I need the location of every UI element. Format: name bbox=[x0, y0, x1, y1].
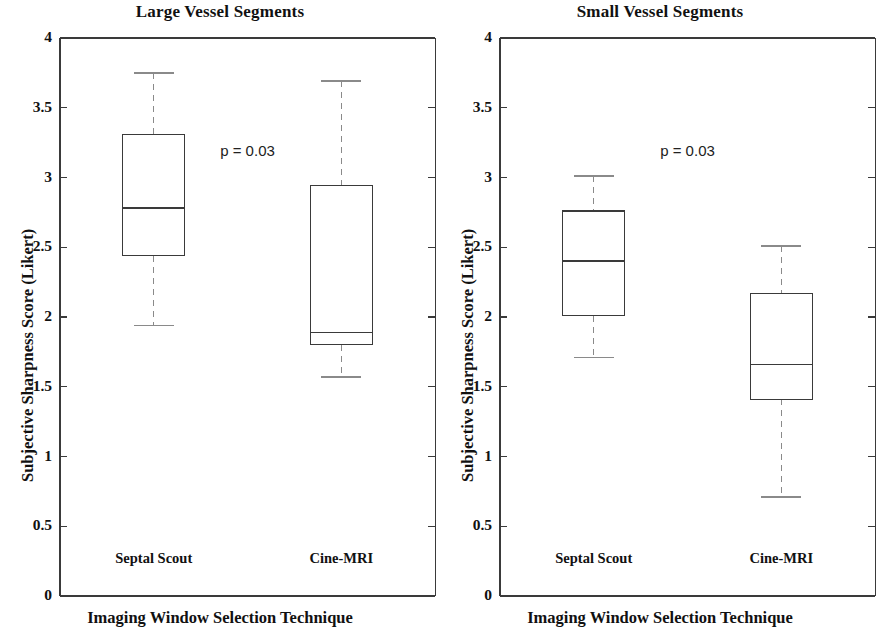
y-tick-label: 1 bbox=[12, 447, 52, 465]
x-category-label: Septal Scout bbox=[555, 550, 632, 567]
y-axis-ticks bbox=[500, 38, 875, 596]
axes bbox=[500, 38, 875, 596]
plot-area bbox=[440, 0, 880, 632]
y-tick-label: 4 bbox=[452, 28, 492, 46]
x-category-label: Cine-MRI bbox=[749, 550, 813, 567]
y-tick-label: 1.5 bbox=[12, 377, 52, 395]
y-axis-ticks bbox=[60, 38, 435, 596]
y-tick-label: 2.5 bbox=[452, 237, 492, 255]
p-value-annotation: p = 0.03 bbox=[660, 142, 715, 159]
x-category-label: Septal Scout bbox=[115, 550, 192, 567]
panel-small-vessel-segments: Small Vessel Segments Subjective Sharpne… bbox=[440, 0, 880, 632]
y-tick-label: 0.5 bbox=[12, 516, 52, 534]
y-tick-label: 0.5 bbox=[452, 516, 492, 534]
y-tick-label: 3.5 bbox=[12, 98, 52, 116]
box-plot-cine-mri bbox=[750, 246, 812, 497]
p-value-annotation: p = 0.03 bbox=[220, 142, 275, 159]
y-tick-label: 2 bbox=[452, 307, 492, 325]
y-tick-label: 1 bbox=[452, 447, 492, 465]
box-plot-septal-scout bbox=[563, 176, 625, 357]
plot-area bbox=[0, 0, 440, 632]
x-category-label: Cine-MRI bbox=[309, 550, 373, 567]
boxplot-figure: Large Vessel Segments Subjective Sharpne… bbox=[0, 0, 880, 632]
y-tick-label: 3.5 bbox=[452, 98, 492, 116]
box-plot-cine-mri bbox=[310, 81, 372, 377]
y-tick-label: 3 bbox=[12, 168, 52, 186]
axes bbox=[60, 38, 435, 596]
y-tick-label: 4 bbox=[12, 28, 52, 46]
y-tick-label: 0 bbox=[12, 586, 52, 604]
y-tick-label: 3 bbox=[452, 168, 492, 186]
box-plot-septal-scout bbox=[123, 73, 185, 325]
y-tick-label: 0 bbox=[452, 586, 492, 604]
y-tick-label: 2 bbox=[12, 307, 52, 325]
y-tick-label: 1.5 bbox=[452, 377, 492, 395]
panel-large-vessel-segments: Large Vessel Segments Subjective Sharpne… bbox=[0, 0, 440, 632]
y-tick-label: 2.5 bbox=[12, 237, 52, 255]
